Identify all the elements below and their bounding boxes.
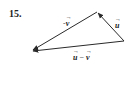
minus-operator: −	[77, 53, 86, 62]
vector-v-symbol: v	[66, 16, 70, 28]
vector-u-symbol: u	[115, 18, 119, 30]
label-neg-v: -v	[63, 16, 69, 28]
label-u: u	[115, 18, 119, 30]
vector-v-symbol: v	[86, 50, 90, 62]
label-u-minus-v: u−v	[73, 50, 90, 62]
vector-u-symbol: u	[73, 50, 77, 62]
